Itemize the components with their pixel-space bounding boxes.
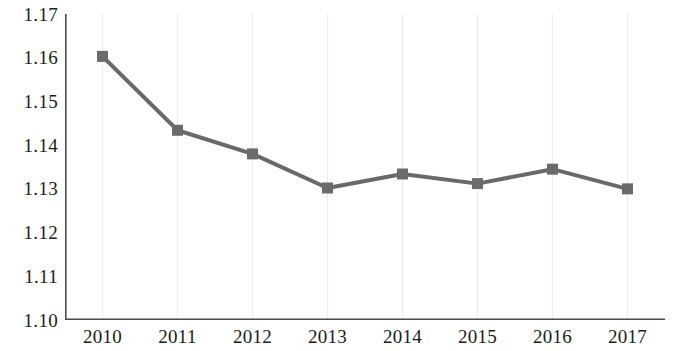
chart-svg [65, 14, 665, 320]
data-point-marker [622, 183, 633, 194]
line-chart: 1.101.111.121.131.141.151.161.17 2010201… [0, 0, 673, 351]
y-axis-tick-label: 1.10 [2, 311, 58, 330]
y-axis-tick-label: 1.14 [2, 136, 58, 155]
data-point-marker [547, 164, 558, 175]
y-axis-tick-labels: 1.101.111.121.131.141.151.161.17 [0, 0, 58, 351]
data-point-marker [472, 178, 483, 189]
data-point-marker [172, 125, 183, 136]
x-axis-tick-label: 2014 [363, 326, 443, 348]
y-axis-tick-label: 1.17 [2, 5, 58, 24]
x-axis-tick-label: 2013 [288, 326, 368, 348]
y-axis-tick-label: 1.15 [2, 92, 58, 111]
x-axis-tick-label: 2010 [63, 326, 143, 348]
data-point-marker [247, 148, 258, 159]
data-point-marker [322, 182, 333, 193]
axis-spine [66, 14, 665, 319]
x-axis-tick-labels: 20102011201220132014201520162017 [65, 326, 665, 351]
x-axis-tick-label: 2017 [588, 326, 668, 348]
y-axis-tick-label: 1.16 [2, 48, 58, 67]
data-point-marker [397, 168, 408, 179]
x-axis-tick-label: 2011 [138, 326, 218, 348]
y-axis-tick-label: 1.11 [2, 267, 58, 286]
plot-area [65, 14, 665, 320]
y-axis-tick-label: 1.12 [2, 223, 58, 242]
axis-lines [66, 14, 665, 319]
x-axis-tick-label: 2012 [213, 326, 293, 348]
data-point-marker [97, 51, 108, 62]
x-axis-tick-label: 2015 [438, 326, 518, 348]
x-axis-tick-label: 2016 [513, 326, 593, 348]
y-axis-tick-label: 1.13 [2, 179, 58, 198]
